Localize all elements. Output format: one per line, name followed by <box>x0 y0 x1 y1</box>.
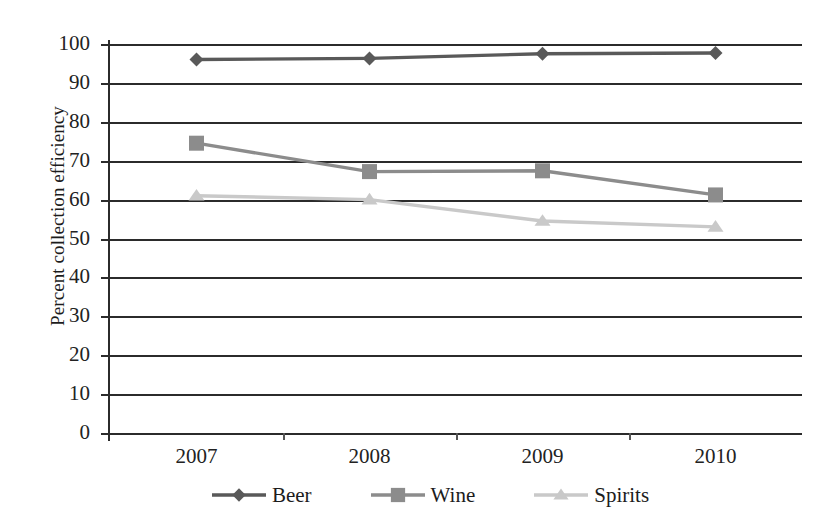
data-point-marker <box>362 164 377 179</box>
y-axis-tick-label: 40 <box>32 266 90 287</box>
data-point-marker <box>363 51 377 65</box>
series-beer <box>190 46 723 67</box>
x-axis-tick <box>629 433 631 440</box>
legend-label: Wine <box>431 485 476 506</box>
legend-square-icon <box>370 485 426 505</box>
y-axis-tick-label: 70 <box>32 150 90 171</box>
y-axis-tick-label: 100 <box>32 33 90 54</box>
legend-label: Spirits <box>594 485 649 506</box>
legend-entry-spirits[interactable]: Spirits <box>533 485 649 506</box>
series-layer <box>110 44 802 433</box>
data-point-marker <box>709 46 723 60</box>
y-axis-tick-label: 80 <box>32 111 90 132</box>
legend-label: Beer <box>272 485 312 506</box>
y-axis-tick-label: 20 <box>32 344 90 365</box>
x-axis-tick-label: 2008 <box>310 446 430 467</box>
x-axis-tick-label: 2009 <box>483 446 603 467</box>
x-axis-tick-label: 2007 <box>137 446 257 467</box>
series-line <box>197 143 716 195</box>
chart-figure: Percent collection efficiency 0102030405… <box>0 0 823 530</box>
series-spirits <box>189 189 724 232</box>
plot-area <box>110 44 802 433</box>
chart-legend: BeerWineSpirits <box>110 478 750 512</box>
x-axis-tick-label: 2010 <box>656 446 776 467</box>
series-line <box>197 53 716 60</box>
data-point-marker <box>535 163 550 178</box>
data-point-marker <box>189 136 204 151</box>
series-line <box>197 196 716 227</box>
data-point-marker <box>708 187 723 202</box>
x-axis-tick <box>283 433 285 440</box>
y-axis-tick-label: 50 <box>32 228 90 249</box>
series-wine <box>189 136 723 203</box>
y-axis-tick-label: 10 <box>32 383 90 404</box>
y-axis-tick-label: 60 <box>32 189 90 210</box>
data-point-marker <box>536 47 550 61</box>
y-axis-tick-label: 0 <box>32 422 90 443</box>
y-axis-tick-label: 30 <box>32 305 90 326</box>
data-point-marker <box>190 53 204 67</box>
x-axis-tick <box>456 433 458 440</box>
legend-triangle-icon <box>533 485 589 505</box>
legend-entry-beer[interactable]: Beer <box>211 485 312 506</box>
legend-diamond-icon <box>211 485 267 505</box>
y-axis-tick-label: 90 <box>32 72 90 93</box>
legend-entry-wine[interactable]: Wine <box>370 485 476 506</box>
